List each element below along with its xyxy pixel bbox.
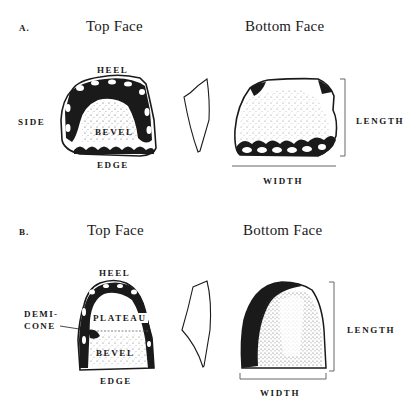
- panel-b-bottom-face-title: Bottom Face: [243, 222, 322, 239]
- panel-a-top-face-title: Top Face: [86, 18, 143, 35]
- panel-a-length-bracket: [340, 79, 345, 156]
- panel-b-bevel-label: BEVEL: [96, 348, 135, 358]
- panel-b-width-label: WIDTH: [260, 388, 300, 398]
- panel-b-width-bracket: [240, 373, 326, 379]
- panel-b-demicone-label-line1: DEMI-: [24, 309, 59, 320]
- panel-b-length-label: LENGTH: [347, 325, 395, 335]
- panel-a-bottom-face-title: Bottom Face: [245, 18, 324, 35]
- panel-a-letter: A.: [19, 23, 30, 33]
- panel-b-plateau-label: PLATEAU: [92, 313, 148, 323]
- panel-a-edge-label: EDGE: [97, 160, 129, 170]
- panel-b-bottom-face-drawing: [241, 282, 326, 368]
- panel-a-length-label: LENGTH: [356, 116, 404, 126]
- panel-a-side-label: SIDE: [18, 117, 45, 127]
- panel-b-side-profile: [182, 281, 211, 367]
- panel-a-side-profile: [184, 79, 209, 152]
- panel-a-bevel-label: BEVEL: [95, 127, 134, 137]
- panel-a-heel-label: HEEL: [97, 65, 128, 75]
- panel-b-top-face-title: Top Face: [87, 222, 144, 239]
- panel-a-width-label: WIDTH: [263, 176, 303, 186]
- panel-b-letter: B.: [19, 227, 29, 237]
- panel-b-demicone-label-line2: CONE: [24, 321, 56, 332]
- panel-b-heel-label: HEEL: [99, 268, 130, 278]
- panel-b-length-bracket: [329, 282, 334, 371]
- panel-a-top-face-drawing: [61, 75, 156, 156]
- panel-a-bottom-face-drawing: [235, 79, 337, 156]
- panel-b-edge-label: EDGE: [100, 376, 132, 386]
- diagram-canvas: [0, 0, 418, 405]
